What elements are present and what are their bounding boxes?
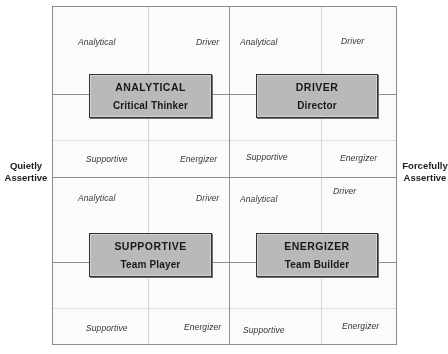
grid-minor-vertical-left	[148, 7, 149, 344]
diagram-canvas: Analytical Driver Supportive Energizer A…	[0, 0, 448, 354]
style-box-supportive-title: SUPPORTIVE	[114, 240, 186, 252]
style-box-energizer[interactable]: ENERGIZER Team Builder	[256, 233, 378, 277]
style-box-analytical[interactable]: ANALYTICAL Critical Thinker	[89, 74, 212, 118]
matrix-frame	[52, 6, 397, 345]
q4-label-energizer: Energizer	[342, 321, 379, 331]
style-box-driver-subtitle: Director	[297, 100, 337, 111]
q1-label-energizer: Energizer	[180, 154, 217, 164]
q3-label-analytical: Analytical	[78, 193, 115, 203]
grid-faint-line-lower	[53, 308, 396, 309]
axis-label-right: Forcefully Assertive	[402, 160, 448, 183]
q2-label-supportive: Supportive	[246, 152, 288, 162]
style-box-driver-title: DRIVER	[296, 81, 338, 93]
q2-label-analytical: Analytical	[240, 37, 277, 47]
axis-label-left: Quietly Assertive	[2, 160, 50, 183]
q2-label-driver: Driver	[341, 36, 364, 46]
axis-label-right-line2: Assertive	[402, 172, 448, 184]
style-box-energizer-title: ENERGIZER	[284, 240, 349, 252]
q3-label-supportive: Supportive	[86, 323, 128, 333]
q4-label-supportive: Supportive	[243, 325, 285, 335]
q3-label-energizer: Energizer	[184, 322, 221, 332]
q4-label-driver: Driver	[333, 186, 356, 196]
style-box-driver[interactable]: DRIVER Director	[256, 74, 378, 118]
q1-label-analytical: Analytical	[78, 37, 115, 47]
q3-label-driver: Driver	[196, 193, 219, 203]
q1-label-supportive: Supportive	[86, 154, 128, 164]
grid-faint-line-upper	[53, 140, 396, 141]
q1-label-driver: Driver	[196, 37, 219, 47]
q4-label-analytical: Analytical	[240, 194, 277, 204]
style-box-analytical-title: ANALYTICAL	[115, 81, 186, 93]
style-box-supportive-subtitle: Team Player	[121, 259, 181, 270]
grid-vertical-axis	[229, 6, 230, 345]
style-box-analytical-subtitle: Critical Thinker	[113, 100, 188, 111]
axis-label-left-line2: Assertive	[2, 172, 50, 184]
grid-horizontal-axis	[52, 177, 397, 178]
grid-minor-vertical-right	[321, 7, 322, 344]
style-box-energizer-subtitle: Team Builder	[285, 259, 349, 270]
axis-label-right-line1: Forcefully	[402, 160, 448, 172]
style-box-supportive[interactable]: SUPPORTIVE Team Player	[89, 233, 212, 277]
axis-label-left-line1: Quietly	[2, 160, 50, 172]
q2-label-energizer: Energizer	[340, 153, 377, 163]
